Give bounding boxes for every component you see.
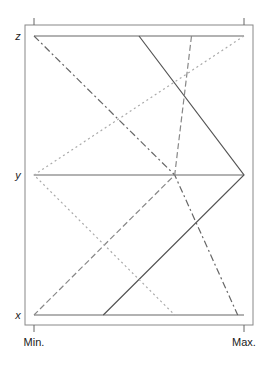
parallel-coordinates-chart: zyx Min. Max. [0,0,272,367]
variable-label-y: y [14,169,22,181]
variable-label-x: x [14,309,21,321]
variable-baselines [34,36,244,315]
variable-labels: zyx [14,30,22,321]
min-label: Min. [24,336,45,348]
max-label: Max. [232,336,256,348]
variable-label-z: z [14,30,21,42]
